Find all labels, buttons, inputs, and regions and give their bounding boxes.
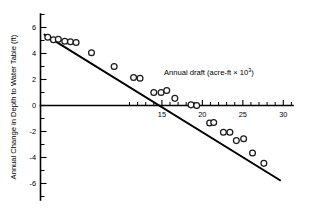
y-tick-label: 6 <box>32 23 36 32</box>
data-point-marker <box>111 64 117 70</box>
y-axis-tick-labels: 6420-2-4-6 <box>29 23 36 188</box>
data-point-marker <box>137 75 143 81</box>
data-point-marker <box>221 129 227 135</box>
scatter-plot: 15202530 6420-2-4-6 Annual draft (acre-f… <box>0 0 322 214</box>
data-point-marker <box>89 50 95 56</box>
x-tick-label: 30 <box>279 110 287 119</box>
y-tick-label: -2 <box>29 127 36 136</box>
y-axis-title: Annual Change in Depth to Water Table (f… <box>9 34 18 179</box>
data-point-marker <box>188 102 194 108</box>
data-point-marker <box>158 90 164 96</box>
x-axis-major-ticks <box>162 100 283 106</box>
trend-line-group <box>45 35 281 181</box>
data-point-marker <box>68 39 74 45</box>
data-point-marker <box>250 150 256 156</box>
data-point-marker <box>172 95 178 101</box>
data-point-marker <box>211 120 217 126</box>
y-tick-label: 0 <box>32 101 36 110</box>
data-point-marker <box>233 138 239 144</box>
x-tick-label: 15 <box>158 110 166 119</box>
data-point-marker <box>73 40 79 46</box>
y-tick-label: -6 <box>29 179 36 188</box>
data-point-marker <box>45 34 51 40</box>
y-tick-label: 4 <box>32 49 36 58</box>
trend-line <box>45 35 281 181</box>
data-point-marker <box>151 90 157 96</box>
data-point-marker <box>55 36 61 42</box>
y-axis-major-ticks <box>41 28 47 184</box>
data-point-marker <box>227 129 233 135</box>
data-point-marker <box>164 88 170 94</box>
chart-figure: 15202530 6420-2-4-6 Annual draft (acre-f… <box>0 0 322 214</box>
x-tick-label: 20 <box>198 110 206 119</box>
x-axis-title: Annual draft (acre-ft × 103) <box>164 67 254 77</box>
y-tick-label: 2 <box>32 75 36 84</box>
data-markers-group <box>45 34 267 166</box>
data-point-marker <box>62 38 68 44</box>
data-point-marker <box>241 136 247 142</box>
x-tick-label: 25 <box>239 110 247 119</box>
data-point-marker <box>194 103 200 109</box>
data-point-marker <box>131 75 137 81</box>
y-tick-label: -4 <box>29 153 36 162</box>
data-point-marker <box>261 160 267 166</box>
